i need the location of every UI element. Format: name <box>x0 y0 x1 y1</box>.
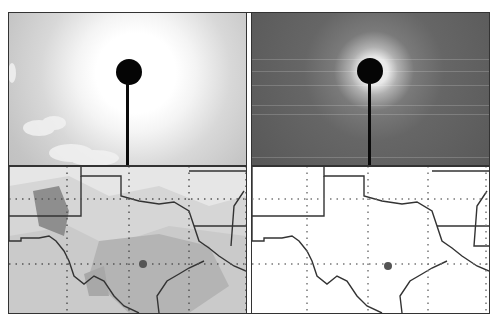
occulter-disk <box>116 59 142 85</box>
sky-image-left <box>9 13 246 166</box>
occulter-pole <box>368 83 371 166</box>
site-marker <box>139 260 147 268</box>
occulter-pole <box>126 83 129 166</box>
vertical-divider <box>246 12 252 314</box>
site-marker <box>384 262 392 270</box>
outline-map <box>252 166 489 313</box>
shaded-map <box>9 166 246 313</box>
sky-image-right <box>252 13 489 166</box>
occulter-disk <box>357 58 383 84</box>
